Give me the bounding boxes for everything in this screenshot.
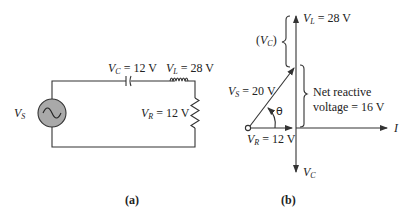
- net-reactive-line1: Net reactive: [313, 86, 371, 98]
- resistor-label: VR = 12 V: [141, 107, 189, 121]
- subscript: S: [21, 112, 25, 121]
- value: = 28 V: [178, 61, 214, 75]
- vc-bracket-label: (VC): [256, 34, 277, 48]
- theta-label: θ: [276, 106, 283, 117]
- value: = 12 V: [121, 61, 157, 75]
- vc-axis-label: VC: [303, 166, 316, 180]
- inductor-coil: [170, 78, 188, 81]
- caption-b: (b): [281, 193, 296, 208]
- net-reactive-brace: [300, 65, 307, 127]
- wire-top-left: [52, 81, 126, 99]
- net-reactive-line2: voltage = 16 V: [313, 101, 385, 113]
- origin-node: [245, 125, 250, 130]
- paren-close: ): [273, 33, 277, 47]
- value: = 20 V: [239, 84, 275, 98]
- capacitor-label: VC = 12 V: [108, 62, 157, 76]
- value: = 12 V: [153, 106, 189, 120]
- vl-label: VL = 28 V: [303, 12, 351, 26]
- value: = 28 V: [315, 11, 351, 25]
- caption-a: (a): [125, 193, 139, 208]
- resistor-zigzag: [191, 98, 199, 128]
- vs-label: VS = 20 V: [228, 85, 276, 99]
- capacitor-plate-2: [130, 76, 131, 86]
- vc-brace: [282, 16, 290, 67]
- current-axis-label: I: [394, 122, 398, 134]
- vr-label: VR = 12 V: [247, 133, 295, 147]
- inductor-label: VL = 28 V: [166, 62, 214, 76]
- source-label: VS: [14, 107, 25, 121]
- subscript: C: [310, 171, 315, 180]
- theta-arc: [268, 108, 275, 128]
- value: = 12 V: [259, 132, 295, 146]
- wire-right-bottom: [52, 127, 195, 147]
- wire-right: [185, 81, 195, 98]
